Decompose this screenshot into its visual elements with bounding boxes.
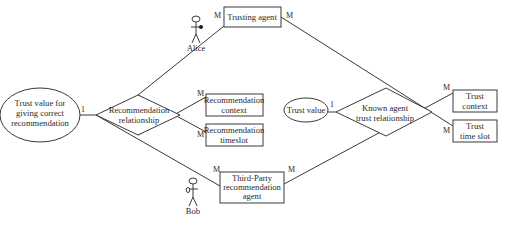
- entity-trusting-agent-label: Trusting agent: [227, 12, 277, 22]
- attribute-trust-value-rec-line1: Trust value for: [15, 98, 66, 108]
- attribute-trust-value: Trust value: [284, 98, 328, 122]
- entity-rec-timeslot-line1: Recommendation: [204, 125, 265, 135]
- card-trust-context: M: [443, 83, 450, 92]
- stick-figure-icon: [191, 16, 203, 43]
- stick-figure-icon: [186, 178, 198, 206]
- actor-bob-label: Bob: [186, 206, 200, 216]
- attribute-trust-value-rec-line3: recommendation: [11, 118, 69, 128]
- entity-third-party: Third-Party recommendation agent: [220, 172, 284, 203]
- er-diagram: Recommendation relationship Known agent …: [0, 0, 511, 226]
- entity-trust-context-line1: Trust: [466, 91, 484, 101]
- card-third-party-right: M: [288, 165, 295, 174]
- actor-alice: Alice: [187, 16, 206, 53]
- entity-rec-timeslot: Recommendation timeslot: [204, 124, 265, 146]
- relationship-known-agent-line2: trust relationship: [356, 113, 414, 123]
- attribute-trust-value-label: Trust value: [287, 105, 326, 115]
- card-trust-value: 1: [330, 100, 334, 109]
- entity-trust-context: Trust context: [453, 90, 497, 112]
- relationship-recommendation-line2: relationship: [119, 115, 160, 125]
- actor-bob: Bob: [186, 178, 200, 216]
- entity-rec-context-line1: Recommendation: [204, 95, 265, 105]
- entity-trust-timeslot: Trust time slot: [453, 120, 497, 142]
- card-rec-timeslot: M: [197, 130, 204, 139]
- entity-rec-context-line2: context: [221, 105, 247, 115]
- entity-trust-context-line2: context: [462, 101, 488, 111]
- card-trusting-agent-left: M: [214, 11, 221, 20]
- card-trust-timeslot: M: [443, 126, 450, 135]
- relationship-known-agent: Known agent trust relationship: [336, 88, 432, 136]
- relationship-recommendation: Recommendation relationship: [96, 95, 180, 135]
- entity-trust-timeslot-line2: time slot: [460, 131, 490, 141]
- card-trust-value-rec: 1: [81, 105, 85, 114]
- entity-third-party-line3: agent: [243, 191, 262, 201]
- entity-trusting-agent: Trusting agent: [224, 7, 281, 27]
- edge-trusting-agent-to-recommendation: [138, 26, 224, 95]
- entity-rec-context: Recommendation context: [204, 94, 265, 116]
- attribute-trust-value-rec: Trust value for giving correct recommend…: [0, 88, 80, 142]
- card-rec-context: M: [197, 89, 204, 98]
- card-trusting-agent-right: M: [286, 11, 293, 20]
- card-third-party-left: M: [213, 165, 220, 174]
- actor-alice-label: Alice: [187, 43, 206, 53]
- relationship-known-agent-line1: Known agent: [362, 103, 409, 113]
- entity-rec-timeslot-line2: timeslot: [220, 135, 248, 145]
- entity-trust-timeslot-line1: Trust: [466, 121, 484, 131]
- relationship-recommendation-line1: Recommendation: [109, 105, 170, 115]
- attribute-trust-value-rec-line2: giving correct: [16, 108, 65, 118]
